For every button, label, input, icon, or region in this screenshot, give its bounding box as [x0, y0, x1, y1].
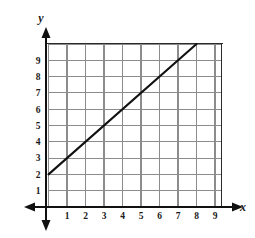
x-tick-label: 7	[176, 211, 181, 221]
x-tick-label: 3	[102, 211, 107, 221]
y-tick-label: 5	[36, 121, 41, 131]
y-tick-label: 2	[36, 170, 41, 180]
x-tick-label: 6	[157, 211, 162, 221]
y-tick-label: 9	[36, 56, 41, 66]
x-tick-label: 8	[194, 211, 199, 221]
y-axis-label: y	[36, 11, 44, 25]
coordinate-plane-graph: 1 2 3 4 5 6 7 8 9 1 2 3 4 5 6 7 8 9 x y	[0, 0, 255, 238]
x-axis-left-arrow-icon	[24, 203, 35, 212]
y-axis-down-arrow-icon	[42, 220, 51, 231]
y-axis-tick-labels: 1 2 3 4 5 6 7 8 9	[36, 56, 41, 196]
y-tick-label: 4	[36, 137, 41, 147]
grid-lines	[49, 44, 223, 207]
x-axis-tick-labels: 1 2 3 4 5 6 7 8 9	[65, 211, 218, 221]
y-tick-label: 7	[36, 88, 41, 98]
x-tick-label: 5	[139, 211, 144, 221]
x-tick-label: 4	[120, 211, 125, 221]
axis-arrowheads	[24, 27, 243, 231]
graph-screenshot: 1 2 3 4 5 6 7 8 9 1 2 3 4 5 6 7 8 9 x y	[0, 0, 255, 238]
y-tick-label: 1	[36, 186, 41, 196]
x-tick-label: 2	[83, 211, 88, 221]
x-tick-label: 1	[65, 211, 70, 221]
y-tick-label: 3	[36, 153, 41, 163]
y-axis-up-arrow-icon	[42, 27, 51, 38]
y-tick-label: 6	[36, 105, 41, 115]
x-axis-label: x	[239, 200, 246, 214]
x-tick-label: 9	[213, 211, 218, 221]
y-tick-label: 8	[36, 72, 41, 82]
